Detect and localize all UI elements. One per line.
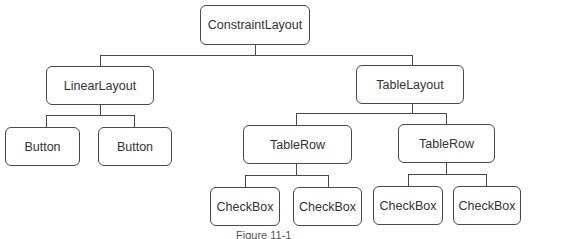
node-checkbox-3: CheckBox <box>373 186 443 225</box>
connector-to-button-1 <box>46 115 47 127</box>
node-tablerow-1: TableRow <box>243 125 352 164</box>
node-button-2: Button <box>98 127 172 166</box>
node-checkbox-1: CheckBox <box>210 187 280 226</box>
connector-to-button-2 <box>134 115 135 127</box>
connector-to-tablelayout <box>412 55 413 65</box>
connector-linearlayout-bar <box>46 115 135 116</box>
figure-caption: Figure 11-1 <box>236 229 291 239</box>
connector-tablelayout-bar <box>296 113 447 114</box>
node-constraintlayout: ConstraintLayout <box>200 5 310 45</box>
connector-to-linearlayout <box>100 55 101 66</box>
node-linearlayout: LinearLayout <box>46 66 154 105</box>
connector-to-checkbox-4 <box>486 174 487 186</box>
node-checkbox-2: CheckBox <box>293 187 362 226</box>
node-tablelayout: TableLayout <box>356 65 464 104</box>
connector-to-tablerow-2 <box>446 113 447 124</box>
connector-root-bar <box>100 55 413 56</box>
connector-to-checkbox-1 <box>245 175 246 187</box>
node-checkbox-4: CheckBox <box>453 186 521 225</box>
connector-tablerow-2-bar <box>408 174 487 175</box>
connector-to-checkbox-3 <box>408 174 409 186</box>
connector-to-tablerow-1 <box>296 113 297 125</box>
connector-tablerow-1-bar <box>245 175 329 176</box>
node-tablerow-2: TableRow <box>398 124 495 163</box>
node-button-1: Button <box>5 127 80 166</box>
connector-to-checkbox-2 <box>328 175 329 187</box>
